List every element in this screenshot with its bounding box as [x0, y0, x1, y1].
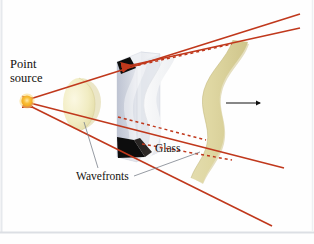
wavefront-near-source — [63, 78, 101, 131]
ray-upper-inner — [128, 28, 300, 66]
label-glass: Glass — [155, 142, 181, 155]
label-wavefronts: Wavefronts — [76, 170, 129, 183]
label-point-source: Point source — [10, 57, 43, 85]
diagram-canvas — [0, 0, 314, 244]
label-point-source-line2: source — [10, 71, 43, 85]
leader-wavefronts-left — [84, 122, 98, 168]
optics-diagram-figure: Point source Glass Wavefronts — [0, 0, 314, 244]
ray-upper-outer — [30, 14, 300, 99]
point-source-dot — [19, 93, 34, 108]
wavefront-emerging — [191, 40, 249, 184]
label-point-source-line1: Point — [10, 57, 36, 71]
